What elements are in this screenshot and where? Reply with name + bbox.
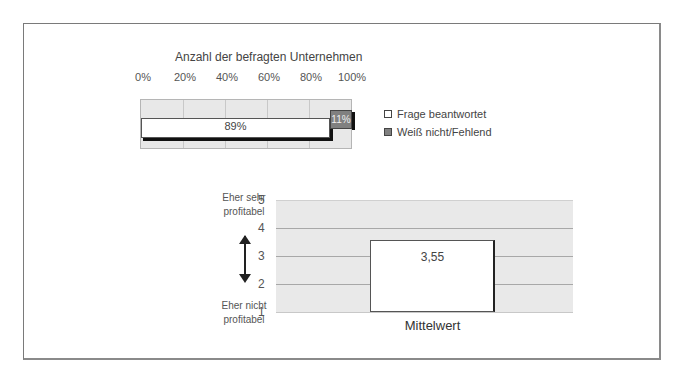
label-line: profitabel	[209, 313, 279, 327]
label-line: Eher sehr	[209, 191, 279, 205]
x-tick: 20%	[174, 71, 196, 83]
label-line: profitabel	[209, 205, 279, 219]
x-tick: 80%	[300, 71, 322, 83]
bar-label-89: 89%	[141, 120, 330, 132]
x-tick: 0%	[135, 71, 151, 83]
bar-weiss-nicht: 11%	[330, 110, 352, 129]
label-eher-nicht-profitabel: Eher nicht profitabel	[209, 299, 279, 327]
y-tick: 2	[258, 277, 265, 291]
bar-shadow	[352, 112, 355, 130]
legend-item-frage-beantwortet: Frage beantwortet	[384, 108, 492, 120]
chart1-title: Anzahl der befragten Unternehmen	[175, 50, 362, 64]
gridline	[276, 228, 573, 229]
x-tick: 60%	[258, 71, 280, 83]
legend-label: Weiß nicht/Fehlend	[397, 126, 492, 138]
y-tick: 3	[258, 249, 265, 263]
gridline	[276, 312, 573, 313]
label-eher-sehr-profitabel: Eher sehr profitabel	[209, 191, 279, 219]
legend-swatch-white	[384, 110, 392, 118]
bar-shadow	[143, 138, 333, 141]
legend-swatch-gray	[384, 128, 392, 136]
label-line: Eher nicht	[209, 299, 279, 313]
bar-label-3-55: 3,55	[370, 250, 495, 264]
bar-shadow	[330, 129, 333, 141]
arrow-up-icon	[239, 235, 251, 244]
x-tick: 40%	[216, 71, 238, 83]
legend: Frage beantwortet Weiß nicht/Fehlend	[384, 108, 492, 138]
x-tick: 100%	[338, 71, 366, 83]
y-tick: 4	[258, 221, 265, 235]
category-label: Mittelwert	[370, 318, 495, 333]
legend-item-weiss-nicht: Weiß nicht/Fehlend	[384, 126, 492, 138]
legend-label: Frage beantwortet	[397, 108, 486, 120]
arrow-down-icon	[239, 274, 251, 283]
